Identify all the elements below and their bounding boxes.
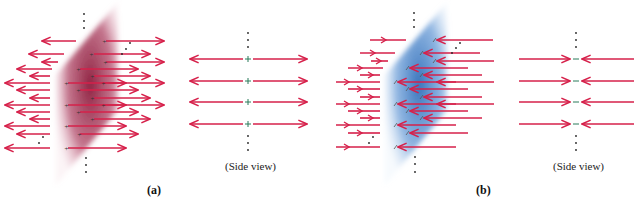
svg-text:+: + (76, 109, 81, 117)
charged-plane-positive (56, 2, 118, 185)
svg-text:+: + (90, 116, 95, 124)
svg-text:+: + (90, 95, 95, 103)
side-view-a (190, 32, 307, 151)
svg-text:+: + (64, 102, 69, 110)
panel-a: +++ +++ +++ +++ +++ + (5, 2, 164, 185)
figure-canvas: +++ +++ +++ +++ +++ + (0, 0, 637, 202)
svg-text:+: + (64, 145, 69, 153)
charged-plane-negative (385, 2, 447, 185)
side-view-label-b: (Side view) (553, 160, 604, 172)
svg-text:+: + (101, 80, 106, 88)
svg-text:+: + (103, 59, 108, 67)
svg-text:+: + (77, 131, 82, 139)
panel-label-b: (b) (476, 183, 491, 198)
svg-text:+: + (64, 123, 69, 131)
svg-text:+: + (102, 38, 107, 46)
panel-label-a: (a) (147, 183, 161, 198)
svg-text:+: + (101, 102, 106, 110)
side-view-label-a: (Side view) (225, 160, 276, 172)
panel-b (336, 2, 494, 185)
svg-text:+: + (89, 51, 94, 59)
side-view-b (519, 32, 634, 151)
svg-text:+: + (76, 87, 81, 95)
svg-text:+: + (90, 73, 95, 81)
svg-text:+: + (64, 80, 69, 88)
svg-text:+: + (76, 66, 81, 74)
